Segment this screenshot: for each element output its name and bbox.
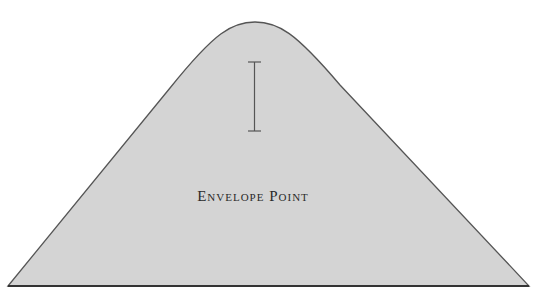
envelope-canvas — [0, 0, 542, 294]
envelope-point-label: Envelope Point — [0, 188, 506, 205]
envelope-shape[interactable] — [8, 22, 529, 286]
